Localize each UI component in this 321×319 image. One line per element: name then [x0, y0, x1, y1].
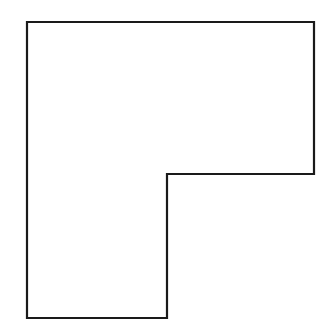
- l-shape-outline: [27, 22, 314, 318]
- diagram-canvas: [0, 0, 321, 319]
